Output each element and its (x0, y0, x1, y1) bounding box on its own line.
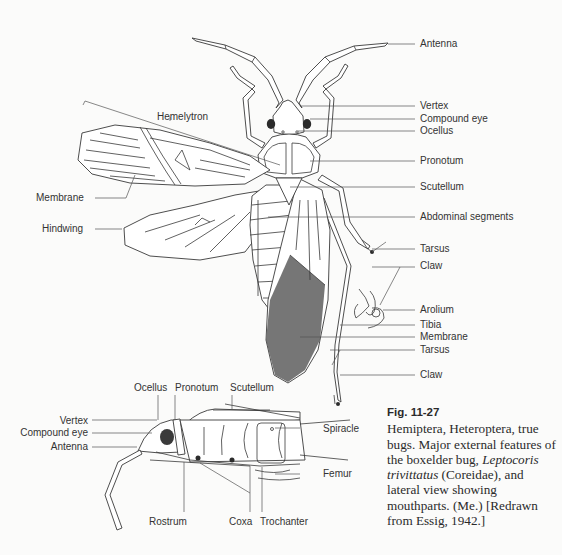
dorsal-view-drawing (78, 38, 388, 406)
figure-caption: Fig. 11-27 Hemiptera, Heteroptera, true … (387, 405, 557, 528)
label-lateral-ocellus: Ocellus (134, 382, 167, 393)
lateral-view-drawing (105, 404, 350, 530)
label-arolium: Arolium (420, 304, 454, 315)
label-claw-hind: Claw (420, 369, 442, 380)
label-rostrum: Rostrum (149, 516, 187, 527)
label-lateral-antenna: Antenna (0, 441, 88, 452)
head-drawing (267, 100, 311, 135)
label-hemelytron: Hemelytron (157, 111, 208, 122)
label-tarsus-front: Tarsus (420, 243, 449, 254)
label-lateral-scutellum: Scutellum (230, 382, 274, 393)
label-hindwing: Hindwing (42, 223, 83, 234)
label-lateral-vertex: Vertex (0, 415, 88, 426)
label-membrane-left: Membrane (36, 192, 84, 203)
label-scutellum: Scutellum (420, 181, 464, 192)
label-ocellus: Ocellus (420, 125, 453, 136)
label-femur: Femur (323, 468, 352, 479)
label-lateral-pronotum: Pronotum (175, 382, 218, 393)
label-vertex: Vertex (420, 100, 448, 111)
label-coxa: Coxa (229, 516, 252, 527)
label-spiracle: Spiracle (323, 423, 359, 434)
antennae-drawing (192, 38, 388, 108)
claw-detail-drawing (354, 289, 384, 328)
label-lateral-compound-eye: Compound eye (0, 427, 88, 438)
label-membrane-right: Membrane (420, 331, 468, 342)
figure-number: Fig. 11-27 (387, 405, 557, 420)
label-abdominal-segments: Abdominal segments (420, 211, 513, 222)
figure: Antenna Vertex Compound eye Ocellus Pron… (0, 0, 562, 555)
hindwing-drawing (124, 190, 265, 260)
label-compound-eye: Compound eye (420, 113, 488, 124)
label-claw-front: Claw (420, 260, 442, 271)
label-pronotum: Pronotum (420, 155, 463, 166)
label-antenna: Antenna (420, 38, 457, 49)
label-tarsus-hind: Tarsus (420, 344, 449, 355)
label-trochanter: Trochanter (260, 516, 308, 527)
label-tibia: Tibia (420, 319, 441, 330)
forewing-drawing (78, 125, 270, 186)
